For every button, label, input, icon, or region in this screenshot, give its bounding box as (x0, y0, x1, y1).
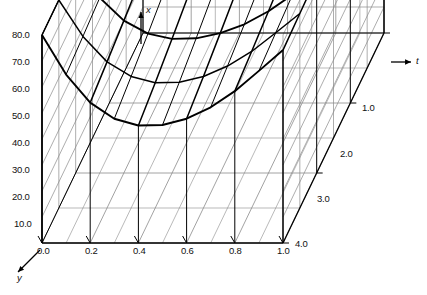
y-tick-0-8: 0.8 (229, 245, 242, 256)
t-tick-1-0: 1.0 (362, 102, 375, 113)
t-tick-4-0: 4.0 (295, 238, 308, 249)
x-tick-40: 40.0 (12, 137, 30, 148)
x-tick-70: 70.0 (12, 56, 30, 67)
x-tick-20: 20.0 (12, 191, 30, 202)
y-tick-0-0: 0.0 (37, 245, 50, 256)
x-tick-30: 30.0 (12, 164, 30, 175)
y-tick-1-0: 1.0 (277, 245, 290, 256)
y-tick-0-6: 0.6 (181, 245, 194, 256)
x-tick-60: 60.0 (12, 83, 30, 94)
y-tick-0-2: 0.2 (85, 245, 98, 256)
t-tick-2-0: 2.0 (340, 148, 353, 159)
x-tick-80: 80.0 (12, 29, 30, 40)
t-tick-3-0: 3.0 (317, 193, 330, 204)
y-tick-0-4: 0.4 (133, 245, 146, 256)
y-axis-label: y (17, 272, 22, 283)
x-tick-10: 10.0 (14, 218, 32, 229)
t-axis-label: t (416, 55, 419, 66)
figure-canvas: 80.0 70.0 60.0 50.0 40.0 30.0 20.0 10.0 … (0, 0, 427, 295)
x-tick-50: 50.0 (12, 110, 30, 121)
surface-plot-svg (0, 0, 427, 295)
x-axis-label: x (146, 4, 151, 15)
